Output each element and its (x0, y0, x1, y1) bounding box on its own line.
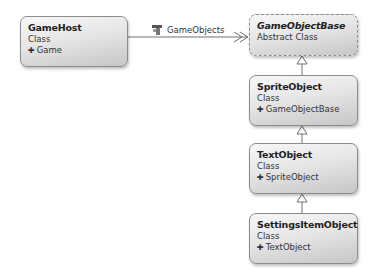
base-type-icon: ✚ (28, 46, 35, 55)
inheritance-connector-settingsitemobject[interactable] (297, 194, 307, 213)
base-type-icon: ✚ (257, 173, 264, 182)
class-base: ✚GameObjectBase (257, 104, 350, 115)
class-base: ✚Game (28, 45, 120, 56)
class-box-gameobjectbase[interactable]: GameObjectBase Abstract Class (249, 14, 358, 56)
class-kind: Class (28, 34, 120, 45)
inheritance-connector-spriteobject[interactable] (297, 56, 307, 75)
class-name: SpriteObject (257, 80, 350, 93)
class-box-spriteobject[interactable]: SpriteObject Class ✚GameObjectBase (249, 75, 358, 126)
class-base: ✚TextObject (257, 242, 350, 253)
class-box-gamehost[interactable]: GameHost Class ✚Game (20, 16, 128, 67)
class-kind: Class (257, 231, 350, 242)
association-label-gameobjects[interactable]: GameObjects (152, 25, 224, 35)
association-label-text: GameObjects (167, 25, 224, 35)
class-box-textobject[interactable]: TextObject Class ✚SpriteObject (249, 143, 358, 194)
class-box-settingsitemobject[interactable]: SettingsItemObject Class ✚TextObject (249, 213, 358, 264)
class-name: SettingsItemObject (257, 218, 350, 231)
class-diagram-canvas: GameObjects GameHost Class ✚Game GameObj… (0, 0, 382, 278)
class-name: GameHost (28, 21, 120, 34)
inheritance-connector-textobject[interactable] (297, 126, 307, 143)
class-kind: Class (257, 93, 350, 104)
class-name: GameObjectBase (257, 19, 350, 32)
base-type-icon: ✚ (257, 243, 264, 252)
class-base: ✚SpriteObject (257, 172, 350, 183)
class-name: TextObject (257, 148, 350, 161)
class-kind: Class (257, 161, 350, 172)
base-type-icon: ✚ (257, 105, 264, 114)
class-kind: Abstract Class (257, 32, 350, 43)
property-icon (152, 25, 162, 35)
